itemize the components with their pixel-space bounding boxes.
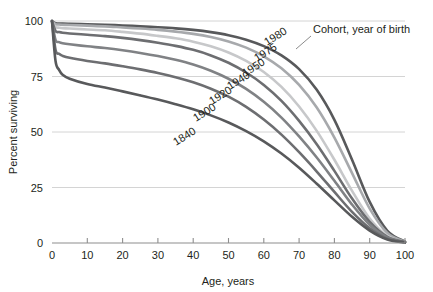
x-tick-label-70: 70 [293,249,305,261]
cohort-annotation-label: Cohort, year of birth [313,23,410,35]
x-tick-label-10: 10 [81,249,93,261]
x-tick-label-30: 30 [152,249,164,261]
x-tick-group [87,238,405,243]
y-tick-labels-group: 0255075100 [25,15,43,249]
y-tick-label-0: 0 [37,237,43,249]
x-tick-label-40: 40 [187,249,199,261]
annotation-leader-line [296,36,311,49]
y-tick-label-100: 100 [25,15,43,27]
curve-1950 [52,21,405,242]
x-tick-labels-group: 0102030405060708090100 [49,249,414,261]
curve-1940 [52,21,405,242]
x-tick-label-90: 90 [364,249,376,261]
x-tick-label-50: 50 [222,249,234,261]
x-tick-label-100: 100 [396,249,414,261]
curve-1980 [52,21,405,242]
x-tick-label-0: 0 [49,249,55,261]
curve-label-1840: 1840 [171,125,198,148]
x-tick-label-80: 80 [328,249,340,261]
x-tick-label-60: 60 [258,249,270,261]
y-tick-label-25: 25 [31,182,43,194]
curve-1975 [52,21,405,242]
x-tick-label-20: 20 [116,249,128,261]
y-tick-label-75: 75 [31,71,43,83]
x-axis-title: Age, years [202,275,255,287]
y-axis-title: Percent surviving [7,90,19,174]
chart-svg: 0102030405060708090100 0255075100 198019… [0,0,433,292]
survival-curve-chart: 0102030405060708090100 0255075100 198019… [0,0,433,292]
y-tick-label-50: 50 [31,126,43,138]
